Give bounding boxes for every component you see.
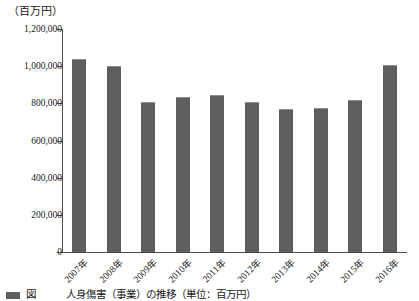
y-axis-tick-label: 400,000 [8,173,62,183]
y-axis-tick-label: 1,000,000 [8,61,62,71]
bar [210,95,224,252]
bar [314,108,328,252]
y-axis-ticks: 0200,000400,000600,000800,0001,000,0001,… [0,0,62,297]
y-axis-tick-label: 600,000 [8,136,62,146]
y-axis-tick-label: 200,000 [8,210,62,220]
y-axis-tick-label: 0 [8,247,62,257]
y-axis-tick-label: 1,200,000 [8,24,62,34]
caption-legend-swatch [6,292,20,299]
x-axis-labels: 2007年2008年2009年2010年2011年2012年2013年2014年… [62,253,407,293]
x-axis-tick-label: 2009年 [130,257,160,287]
bar [245,102,259,252]
bar [141,102,155,252]
y-axis-tick-label: 800,000 [8,98,62,108]
bar [72,59,86,252]
bar [383,65,397,252]
x-axis-tick-label: 2016年 [371,257,401,287]
bar [107,66,121,252]
bar [176,97,190,252]
x-axis-tick-label: 2012年 [233,257,263,287]
x-axis-tick-label: 2014年 [302,257,332,287]
figure-caption: 図 人身傷害（事業）の推移（単位：百万円） [6,288,419,301]
bar [348,100,362,252]
bar [279,109,293,252]
caption-text: 図 人身傷害（事業）の推移（単位：百万円） [26,289,256,300]
x-axis-tick-label: 2015年 [337,257,367,287]
x-axis-tick-label: 2008年 [95,257,125,287]
x-axis-tick-label: 2011年 [199,257,229,287]
x-axis-tick-label: 2007年 [61,257,91,287]
x-axis-tick-label: 2013年 [268,257,298,287]
x-axis-tick-label: 2010年 [164,257,194,287]
bars-container [62,29,407,252]
